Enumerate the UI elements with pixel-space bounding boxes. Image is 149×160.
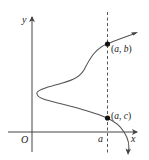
diagram-canvas: y x O a (a, b) (a, c)	[0, 0, 149, 160]
x-axis-label: x	[130, 133, 136, 144]
point-a-b	[105, 41, 110, 46]
y-axis-label: y	[21, 14, 27, 25]
point-a-c	[105, 115, 110, 120]
a-tick-label: a	[98, 133, 103, 144]
point-label-a-b: (a, b)	[111, 44, 132, 55]
point-label-a-c: (a, c)	[111, 111, 131, 122]
origin-label: O	[21, 134, 28, 145]
